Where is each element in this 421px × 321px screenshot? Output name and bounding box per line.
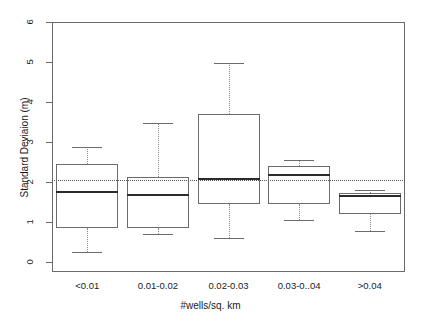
whisker-lower-stem [299,204,300,221]
whisker-lower-cap [214,238,244,239]
y-axis-title: Standard Deviaion (m) [19,78,30,218]
whisker-upper-stem [158,123,159,177]
y-tick-label-text: 6 [25,19,35,24]
y-tick-mark [46,262,52,263]
whisker-lower-stem [87,228,88,252]
x-tick-label: 0.02-0.03 [208,281,248,291]
whisker-upper-cap [355,190,385,191]
whisker-lower-cap [143,234,173,235]
box-iqr-rect [268,166,330,204]
whisker-lower-cap [284,220,314,221]
y-tick-label: 5 [22,55,38,69]
median-line [127,194,189,196]
whisker-lower-stem [229,204,230,239]
y-tick-mark [46,182,52,183]
median-line [56,191,118,193]
whisker-upper-cap [143,123,173,124]
median-line [339,195,401,197]
y-tick-mark [46,222,52,223]
x-tick-label: 0.03-0..04 [278,281,321,291]
y-tick-mark [46,142,52,143]
y-tick-mark [46,22,52,23]
whisker-lower-cap [72,252,102,253]
y-tick-mark [46,102,52,103]
whisker-upper-cap [284,160,314,161]
y-tick-mark [46,62,52,63]
box-iqr-rect [127,177,189,228]
y-tick-label-text: 1 [25,219,35,224]
whisker-upper-stem [229,63,230,114]
whisker-lower-cap [355,231,385,232]
x-tick-label: 0.01-0.02 [138,281,178,291]
y-tick-label-text: 0 [25,259,35,264]
box-iqr-rect [56,164,118,228]
median-line [268,174,330,176]
x-tick-label: <0.01 [75,281,99,291]
whisker-upper-cap [214,63,244,64]
box-iqr-rect [198,114,260,204]
y-tick-label: 6 [22,15,38,29]
median-line [198,178,260,180]
whisker-upper-cap [72,147,102,148]
y-tick-label: 0 [22,255,38,269]
x-tick-label: >0.04 [358,281,382,291]
whisker-lower-stem [370,214,371,231]
whisker-upper-stem [87,147,88,164]
boxplot-figure: 0123456 <0.010.01-0.020.02-0.030.03-0..0… [0,0,421,321]
y-tick-label-text: 5 [25,59,35,64]
x-axis-title: #wells/sq. km [0,300,421,311]
